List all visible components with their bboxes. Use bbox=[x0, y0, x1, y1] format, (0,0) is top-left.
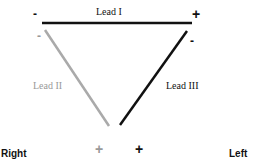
lead-iii-line bbox=[120, 31, 187, 125]
lead-i-positive-sign: + bbox=[192, 7, 200, 21]
lead-iii-negative-sign: - bbox=[190, 35, 194, 47]
lead-i-negative-sign: - bbox=[33, 8, 37, 20]
lead-ii-negative-sign: - bbox=[37, 30, 41, 42]
left-side-label: Left bbox=[229, 149, 247, 159]
right-side-label: Right bbox=[1, 149, 27, 159]
lead-iii-positive-sign: + bbox=[135, 142, 143, 156]
lead-ii-line bbox=[45, 30, 109, 126]
lead-iii-label: Lead III bbox=[166, 81, 198, 91]
einthoven-triangle-diagram: Lead I - + - Lead II + - Lead III + Righ… bbox=[0, 0, 259, 164]
lead-i-label: Lead I bbox=[96, 7, 122, 17]
lead-ii-label: Lead II bbox=[33, 81, 62, 91]
lead-ii-positive-sign: + bbox=[95, 142, 103, 156]
